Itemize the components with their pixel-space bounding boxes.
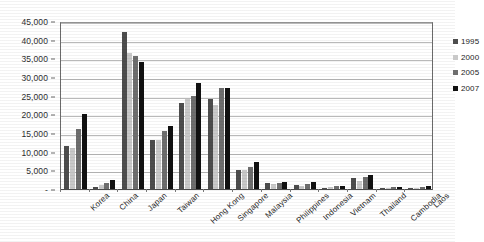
bar	[104, 183, 109, 189]
x-axis-label: China	[117, 191, 139, 212]
y-axis-tick-mark	[51, 40, 55, 41]
bar	[265, 183, 270, 189]
legend-item: 2007	[453, 84, 484, 93]
bar	[311, 182, 316, 189]
x-axis-tick-mark	[146, 189, 147, 192]
x-axis-tick-mark	[232, 189, 233, 192]
legend-swatch-icon	[453, 39, 458, 44]
bar	[156, 140, 161, 189]
bar	[179, 103, 184, 189]
x-axis-tick-mark	[404, 189, 405, 192]
y-axis-tick-mark	[51, 59, 55, 60]
bar	[122, 32, 127, 189]
bar	[76, 129, 81, 189]
bar	[139, 62, 144, 189]
bar-group	[405, 23, 434, 189]
bar	[185, 99, 190, 189]
bar	[110, 180, 115, 189]
bar	[127, 53, 132, 189]
y-axis-tick-mark	[51, 96, 55, 97]
x-axis-tick-mark	[60, 189, 61, 192]
legend-swatch-icon	[453, 86, 458, 91]
x-axis-label: Japan	[146, 191, 169, 213]
y-axis-tick-label: 30,000	[21, 73, 48, 83]
bar	[70, 148, 75, 189]
bar	[225, 88, 230, 189]
bar	[357, 181, 362, 189]
legend-item: 2005	[453, 68, 484, 77]
chart-legend: 1995200020052007	[453, 37, 484, 93]
x-axis-tick-mark	[347, 189, 348, 192]
bar	[386, 188, 391, 189]
bar	[196, 83, 201, 189]
y-axis-tick-label: 40,000	[21, 36, 48, 46]
bar	[368, 175, 373, 189]
bar-group	[176, 23, 205, 189]
bar	[334, 186, 339, 189]
y-axis-tick-label: 20,000	[21, 110, 48, 120]
bar	[340, 186, 345, 189]
y-axis-tick-mark	[51, 134, 55, 135]
bar-group	[262, 23, 291, 189]
x-axis-tick-mark	[117, 189, 118, 192]
y-axis-tick-mark	[51, 22, 55, 23]
bar	[191, 96, 196, 189]
bar	[99, 185, 104, 189]
plot-area: 1995200020052007	[60, 22, 433, 190]
bar	[162, 131, 167, 189]
bar	[213, 105, 218, 189]
legend-item: 2000	[453, 53, 484, 62]
bar	[254, 162, 259, 189]
bar	[242, 170, 247, 189]
y-axis-tick-mark	[51, 115, 55, 116]
y-axis-tick-mark	[51, 78, 55, 79]
bars-layer	[61, 23, 432, 189]
bar	[282, 182, 287, 189]
y-axis-tick-label: 15,000	[21, 129, 48, 139]
bar	[408, 188, 413, 189]
x-axis-tick-mark	[290, 189, 291, 192]
legend-label: 2000	[461, 53, 479, 62]
y-axis-tick-label: 10,000	[21, 148, 48, 158]
legend-swatch-icon	[453, 55, 458, 60]
bar	[64, 146, 69, 189]
bar	[299, 186, 304, 189]
bar	[420, 187, 425, 189]
y-axis-tick-mark	[51, 171, 55, 172]
x-axis-tick-mark	[261, 189, 262, 192]
bar-group	[291, 23, 320, 189]
bar	[391, 187, 396, 189]
bar	[219, 88, 224, 189]
bar	[93, 187, 98, 189]
bar-group	[348, 23, 377, 189]
y-axis-tick-label: 35,000	[21, 54, 48, 64]
legend-label: 2005	[461, 68, 479, 77]
bar	[305, 184, 310, 189]
bar	[277, 183, 282, 189]
bar	[363, 177, 368, 189]
x-axis-label: Korea	[89, 191, 112, 213]
bar	[397, 187, 402, 189]
legend-label: 1995	[461, 37, 479, 46]
bar-group	[118, 23, 147, 189]
legend-swatch-icon	[453, 70, 458, 75]
y-axis-tick-label: 45,000	[21, 17, 48, 27]
bar-group	[377, 23, 406, 189]
bar	[82, 114, 87, 189]
bar	[414, 188, 419, 189]
legend-label: 2007	[461, 84, 479, 93]
bar	[426, 186, 431, 189]
bar	[168, 126, 173, 189]
x-axis-tick-mark	[175, 189, 176, 192]
legend-item: 1995	[453, 37, 484, 46]
bar	[380, 188, 385, 189]
x-axis-label: Thailand	[378, 191, 408, 219]
x-axis-labels: KoreaChinaJapanTaiwanHong KongSingaporeM…	[0, 191, 455, 242]
bar-group	[233, 23, 262, 189]
bar-group	[204, 23, 233, 189]
x-axis-tick-mark	[376, 189, 377, 192]
bar-group	[90, 23, 119, 189]
bar	[150, 140, 155, 189]
bar	[294, 185, 299, 189]
